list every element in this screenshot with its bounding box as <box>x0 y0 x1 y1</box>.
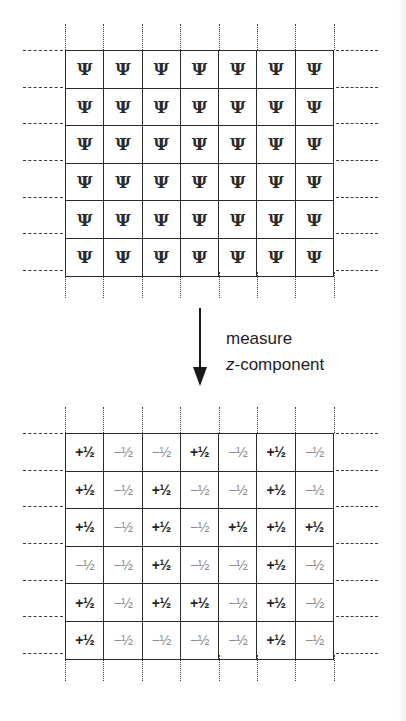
lattice-extension-horizontal <box>336 506 378 507</box>
psi-symbol: Ψ <box>268 210 284 230</box>
lattice-row: −½−½+½−½−½+½−½ <box>66 546 334 584</box>
lattice-site: Ψ <box>180 163 218 201</box>
lattice-extension-horizontal <box>336 580 378 581</box>
psi-symbol: Ψ <box>153 247 169 267</box>
lattice-extension-horizontal <box>336 543 378 544</box>
psi-symbol: Ψ <box>153 97 169 117</box>
lattice-site: +½ <box>142 471 180 509</box>
lattice-extension-vertical <box>142 655 143 681</box>
lattice-site: −½ <box>180 509 218 547</box>
lattice-extension-horizontal <box>23 87 63 88</box>
lattice-extension-vertical <box>295 272 296 298</box>
lattice-row: +½−½+½−½−½+½−½ <box>66 471 334 509</box>
lattice-extension-horizontal <box>336 616 378 617</box>
psi-symbol: Ψ <box>307 97 323 117</box>
lattice-extension-vertical <box>295 407 296 433</box>
lattice-site: Ψ <box>295 238 333 276</box>
spin-down-value: −½ <box>113 632 132 648</box>
spin-down-value: −½ <box>305 444 324 460</box>
psi-symbol: Ψ <box>230 97 246 117</box>
spin-down-value: −½ <box>75 557 94 573</box>
psi-symbol: Ψ <box>153 59 169 79</box>
lattice-row: ΨΨΨΨΨΨΨ <box>66 238 334 276</box>
lattice-site: +½ <box>142 509 180 547</box>
lattice-site: Ψ <box>104 126 142 164</box>
lattice-extension-horizontal <box>336 433 378 434</box>
lattice-extension-vertical <box>142 407 143 433</box>
lattice-extension-vertical <box>103 655 104 681</box>
spin-up-value: +½ <box>75 482 94 498</box>
lattice-extension-vertical <box>219 407 220 433</box>
psi-symbol: Ψ <box>230 59 246 79</box>
spin-up-value: +½ <box>75 519 94 535</box>
lattice-site: Ψ <box>219 238 257 276</box>
component-text: -component <box>235 355 325 374</box>
psi-symbol: Ψ <box>115 210 131 230</box>
lattice-site: Ψ <box>257 51 295 89</box>
spin-up-value: +½ <box>305 519 324 535</box>
psi-symbol: Ψ <box>192 59 208 79</box>
lattice-extension-vertical <box>295 24 296 50</box>
spin-up-value: +½ <box>267 632 286 648</box>
lattice-site: +½ <box>142 546 180 584</box>
lattice-site: −½ <box>104 471 142 509</box>
lattice-site: Ψ <box>219 126 257 164</box>
psi-symbol: Ψ <box>115 59 131 79</box>
spin-down-value: −½ <box>305 595 324 611</box>
lattice-site: Ψ <box>142 88 180 126</box>
lattice-site: −½ <box>66 546 104 584</box>
spin-down-value: −½ <box>228 595 247 611</box>
lattice-site: −½ <box>104 434 142 472</box>
psi-symbol: Ψ <box>307 134 323 154</box>
lattice-extension-vertical <box>142 272 143 298</box>
lattice-site: +½ <box>219 509 257 547</box>
lattice-site: −½ <box>219 584 257 622</box>
spin-down-value: −½ <box>305 482 324 498</box>
lattice-extension-vertical <box>65 407 66 433</box>
spin-up-value: +½ <box>152 482 171 498</box>
lattice-extension-vertical <box>180 655 181 681</box>
psi-symbol: Ψ <box>153 134 169 154</box>
lattice-site: +½ <box>180 434 218 472</box>
lattice-site: −½ <box>219 471 257 509</box>
lattice-site: Ψ <box>104 163 142 201</box>
spin-down-value: −½ <box>190 557 209 573</box>
spin-down-value: −½ <box>228 444 247 460</box>
spin-up-value: +½ <box>267 557 286 573</box>
lattice-site: −½ <box>104 584 142 622</box>
lattice-extension-horizontal <box>23 433 63 434</box>
lattice-site: +½ <box>66 621 104 659</box>
spin-up-value: +½ <box>267 482 286 498</box>
arrow-label-z-component: z-component <box>226 355 324 375</box>
lattice-extension-horizontal <box>23 543 63 544</box>
lattice-site: −½ <box>104 509 142 547</box>
lattice-site: Ψ <box>219 51 257 89</box>
psi-symbol: Ψ <box>115 247 131 267</box>
lattice-site: Ψ <box>66 51 104 89</box>
spin-down-value: −½ <box>113 482 132 498</box>
lattice-extension-horizontal <box>23 470 63 471</box>
lattice-extension-horizontal <box>336 160 378 161</box>
lattice-site: Ψ <box>180 126 218 164</box>
psi-symbol: Ψ <box>268 59 284 79</box>
psi-symbol: Ψ <box>268 134 284 154</box>
psi-symbol: Ψ <box>230 210 246 230</box>
lattice-extension-vertical <box>257 24 258 50</box>
psi-symbol: Ψ <box>192 134 208 154</box>
lattice-site: +½ <box>257 434 295 472</box>
lattice-site: Ψ <box>257 126 295 164</box>
lattice-extension-horizontal <box>23 616 63 617</box>
psi-symbol: Ψ <box>307 59 323 79</box>
lattice-site: −½ <box>219 434 257 472</box>
spin-up-value: +½ <box>267 519 286 535</box>
psi-symbol: Ψ <box>153 172 169 192</box>
lattice-site: Ψ <box>104 88 142 126</box>
psi-symbol: Ψ <box>77 134 93 154</box>
lattice-row: ΨΨΨΨΨΨΨ <box>66 88 334 126</box>
spin-down-value: −½ <box>152 632 171 648</box>
lattice-site: Ψ <box>180 88 218 126</box>
psi-symbol: Ψ <box>230 172 246 192</box>
psi-symbol: Ψ <box>192 97 208 117</box>
psi-symbol: Ψ <box>192 210 208 230</box>
psi-symbol: Ψ <box>307 210 323 230</box>
